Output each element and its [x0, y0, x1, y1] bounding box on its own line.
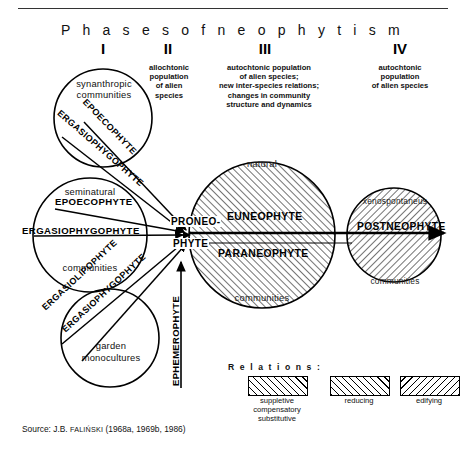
- label-garden: garden: [66, 340, 156, 351]
- label-synanthropic-line2: communities: [58, 89, 150, 100]
- legend-suppletive-line3: substitutive: [224, 414, 330, 423]
- label-natural: natural: [222, 158, 302, 169]
- label-epoecophyte-2: EPOECOPHYTE: [55, 196, 132, 207]
- circle-natural-communities: [189, 162, 335, 308]
- legend-title: R e l a t i o n s :: [228, 362, 321, 372]
- legend-label-edifying: edifying: [388, 396, 465, 405]
- label-phyte: PHYTE: [172, 238, 209, 249]
- label-paraneophyte: PARANEOPHYTE: [218, 248, 309, 259]
- source-line: Source: J.B. FALIŃSKI (1968a, 1969b, 198…: [22, 424, 186, 434]
- legend-swatch-reducing: [330, 376, 390, 396]
- source-years: (1968a, 1969b, 1986): [103, 424, 185, 434]
- label-synanthropic-line1: synanthropic: [58, 78, 150, 89]
- label-euneophyte: EUNEOPHYTE: [227, 211, 303, 222]
- legend-suppletive-line2: compensatory: [224, 405, 330, 414]
- legend-label-suppletive: suppletive compensatory substitutive: [224, 396, 330, 423]
- label-ephemerophyte: EPHEMEROPHYTE: [170, 296, 181, 386]
- label-synanthropic: synanthropic communities: [58, 78, 150, 100]
- label-xenospontaneus-communities: communities: [355, 276, 435, 287]
- source-prefix: Source: J.B.: [22, 424, 70, 434]
- label-postneophyte: POSTNEOPHYTE: [357, 221, 446, 232]
- figure-canvas: P h a s e s o f n e o p h y t i s m I II…: [0, 0, 465, 450]
- legend-suppletive-line1: suppletive: [224, 396, 330, 405]
- label-xenospontaneus: xenospontaneus: [348, 196, 442, 207]
- label-proneo: PRONEO-: [170, 216, 221, 227]
- label-natural-communities: communities: [212, 292, 312, 303]
- label-ergasiophygophyte-2: ERGASIOPHYGOPHYTE: [22, 225, 140, 236]
- legend-swatch-suppletive: [248, 376, 308, 396]
- source-author: FALIŃSKI: [70, 425, 103, 434]
- legend-edifying-line1: edifying: [388, 396, 465, 405]
- legend-swatch-edifying: [400, 376, 460, 396]
- label-garden-monocultures: monocultures: [56, 352, 166, 363]
